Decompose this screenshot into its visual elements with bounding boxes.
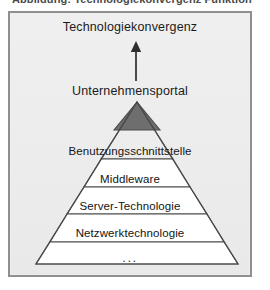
- figure-panel: Technologiekonvergenz Unternehmensportal…: [8, 11, 252, 277]
- pyramid-apex-shape: [114, 102, 160, 130]
- page-caption-strip: Abbildung: Technologiekonvergenz Funktio…: [0, 0, 270, 5]
- technology-pyramid-diagram: [10, 13, 250, 275]
- pyramid-layer-2-shape: [84, 159, 190, 187]
- pyramid-layer-4-shape: [50, 214, 224, 242]
- page-caption-text: Abbildung: Technologiekonvergenz Funktio…: [12, 0, 252, 5]
- pyramid-layer-5-shape: [36, 242, 238, 264]
- pyramid-layer-3-shape: [67, 187, 207, 214]
